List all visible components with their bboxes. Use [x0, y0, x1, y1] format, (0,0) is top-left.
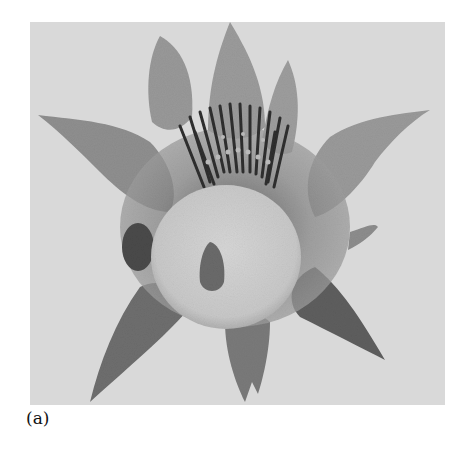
figure-caption: (a) — [26, 410, 49, 427]
side-bud — [122, 223, 154, 271]
figure: (a) — [0, 0, 461, 461]
center-disc — [151, 185, 301, 329]
flower-photo — [30, 22, 445, 405]
flower-image — [30, 22, 445, 405]
